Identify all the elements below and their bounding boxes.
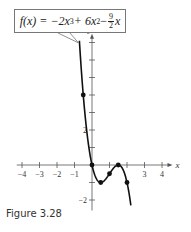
function-graph: xy−4−3−2−1342−2: [0, 0, 191, 232]
function-curve: [79, 41, 130, 205]
fraction-denominator: 2: [109, 22, 113, 30]
data-point: [90, 163, 95, 168]
x-tick-label: −2: [53, 170, 62, 179]
data-point: [98, 180, 103, 185]
formula-mid: + 6x: [74, 14, 96, 29]
y-tick-label: −2: [78, 196, 87, 205]
formula-lhs: f(x) = −2x: [20, 14, 70, 29]
x-tick-label: −1: [70, 170, 79, 179]
x-tick-label: 3: [143, 170, 147, 179]
x-axis-label: x: [175, 160, 180, 170]
x-tick-label: 4: [160, 170, 164, 179]
figure-caption: Figure 3.28: [6, 208, 62, 219]
function-label: f(x) = −2x3 + 6x2 − 92x: [14, 9, 126, 33]
x-axis-arrow-icon: [168, 163, 173, 167]
data-point: [116, 163, 121, 168]
data-point: [81, 93, 86, 98]
axes: xy−4−3−2−1342−2: [17, 24, 180, 211]
formula-tail: x: [115, 14, 120, 29]
data-point: [107, 171, 112, 176]
callout-pointer: [58, 33, 78, 43]
curve: [79, 41, 130, 205]
x-tick-label: −3: [35, 170, 44, 179]
y-axis-arrow-icon: [90, 34, 94, 39]
data-point: [125, 180, 130, 185]
label-pointer: [58, 33, 78, 43]
formula-minus: −: [100, 14, 107, 29]
x-tick-label: −4: [18, 170, 27, 179]
formula-fraction: 92: [108, 13, 114, 30]
